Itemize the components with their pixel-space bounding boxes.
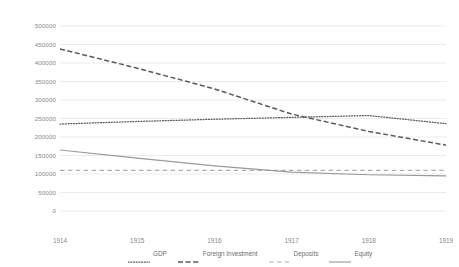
long-dash-line-icon — [269, 251, 291, 257]
dotted-line-icon — [128, 251, 150, 257]
legend-label: Foreign Investment — [203, 250, 258, 257]
data-series — [60, 49, 446, 176]
legend-item-deposits[interactable]: Deposits — [269, 250, 319, 257]
legend-label: GDP — [153, 250, 167, 257]
series-line-gdp — [60, 116, 446, 125]
legend-label: Deposits — [294, 250, 319, 257]
solid-line-icon — [329, 251, 351, 257]
legend-label: Equity — [354, 250, 372, 257]
legend-item-equity[interactable]: Equity — [329, 250, 372, 257]
series-line-equity — [60, 150, 446, 176]
legend-item-gdp[interactable]: GDP — [128, 250, 167, 257]
series-line-foreign-investment — [60, 49, 446, 145]
dashed-line-icon — [178, 251, 200, 257]
legend-item-foreign-investment[interactable]: Foreign Investment — [178, 250, 258, 257]
chart-legend: GDPForeign InvestmentDepositsEquity — [128, 250, 372, 257]
plot-area — [0, 0, 459, 267]
line-chart: 0500001000001500002000002500003000003500… — [0, 0, 459, 267]
